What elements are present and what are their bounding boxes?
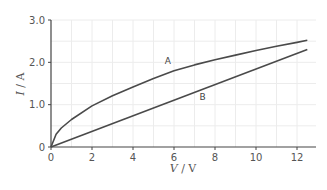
x-tick-label: 12 (291, 152, 304, 163)
x-axis-label: V / V (170, 162, 198, 175)
curve-label-a: A (165, 56, 172, 66)
iv-chart: 02468101201.02.03.0 AB V / V I / A (0, 0, 327, 190)
y-tick-label: 0 (39, 142, 45, 153)
curve-b (51, 50, 307, 147)
ticks: 02468101201.02.03.0 (29, 15, 303, 163)
curve-a (51, 40, 307, 147)
x-axis-label-unit: / V (178, 162, 198, 175)
y-tick-label: 3.0 (29, 15, 45, 26)
x-tick-label: 0 (48, 152, 54, 163)
curve-label-b: B (200, 92, 206, 102)
y-tick-label: 1.0 (29, 99, 45, 110)
y-axis-label: I / A (14, 71, 27, 96)
x-tick-label: 8 (212, 152, 218, 163)
x-tick-label: 4 (130, 152, 136, 163)
y-tick-label: 2.0 (29, 57, 45, 68)
x-tick-label: 10 (250, 152, 263, 163)
grid-lines (51, 20, 316, 147)
x-tick-label: 2 (89, 152, 95, 163)
data-series (51, 40, 307, 147)
y-axis-label-unit: / A (14, 71, 27, 91)
